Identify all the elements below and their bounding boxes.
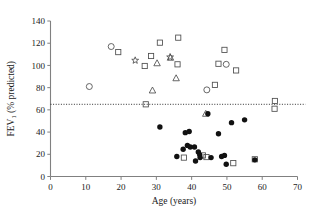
data-points-group	[86, 35, 277, 167]
data-point-filled-circle	[242, 117, 247, 122]
data-point-filled-circle	[180, 147, 185, 152]
axes-group	[47, 21, 297, 180]
data-point-open-square	[148, 53, 153, 58]
data-point-open-square	[175, 62, 180, 67]
x-tick-label: 40	[187, 182, 197, 192]
x-tick-label: 0	[48, 182, 53, 192]
data-point-open-square	[181, 155, 186, 160]
series-open-circle	[86, 44, 229, 93]
plot-canvas: 020406080100120140010203040506070Age (ye…	[0, 0, 314, 211]
data-point-filled-circle	[252, 157, 257, 162]
data-point-open-star	[132, 57, 139, 64]
y-tick-label: 60	[36, 105, 46, 115]
x-tick-label: 60	[258, 182, 268, 192]
data-point-open-square	[272, 106, 277, 111]
x-tick-label: 20	[117, 182, 127, 192]
scatter-plot-figure: 020406080100120140010203040506070Age (ye…	[0, 0, 314, 211]
data-point-open-circle	[204, 87, 210, 93]
series-filled-circle	[157, 111, 257, 167]
data-point-filled-circle	[205, 111, 210, 116]
data-point-open-circle	[86, 84, 92, 90]
data-point-filled-circle	[229, 120, 234, 125]
data-point-open-circle	[108, 44, 114, 50]
x-tick-label: 10	[81, 182, 91, 192]
data-point-open-square	[234, 68, 239, 73]
data-point-open-triangle	[173, 75, 179, 81]
data-point-filled-circle	[197, 155, 202, 160]
data-point-filled-circle	[193, 158, 198, 163]
x-axis-title: Age (years)	[152, 196, 197, 207]
data-point-filled-circle	[216, 131, 221, 136]
data-point-open-square	[142, 63, 147, 68]
y-tick-label: 20	[36, 149, 46, 159]
data-point-filled-circle	[157, 124, 162, 129]
data-point-filled-circle	[192, 144, 197, 149]
data-point-open-square	[231, 161, 236, 166]
x-tick-label: 30	[152, 182, 162, 192]
data-point-open-square	[272, 98, 277, 103]
y-tick-label: 80	[36, 83, 46, 93]
data-point-open-square	[204, 154, 209, 159]
y-tick-label: 120	[32, 38, 46, 48]
data-point-open-square	[216, 61, 221, 66]
y-tick-label: 0	[41, 172, 46, 182]
data-point-filled-circle	[174, 154, 179, 159]
data-point-open-square	[157, 40, 162, 45]
y-tick-label: 140	[32, 16, 46, 26]
data-point-filled-circle	[186, 129, 191, 134]
data-point-open-square	[116, 50, 121, 55]
data-point-filled-circle	[224, 162, 229, 167]
data-point-open-triangle	[154, 60, 160, 66]
data-point-open-square	[222, 47, 227, 52]
data-point-filled-circle	[208, 155, 213, 160]
data-point-open-circle	[223, 61, 229, 67]
series-open-triangle	[149, 54, 209, 116]
x-tick-label: 70	[293, 182, 303, 192]
data-point-filled-circle	[219, 154, 224, 159]
data-point-open-square	[212, 82, 217, 87]
x-tick-label: 50	[222, 182, 232, 192]
data-point-open-square	[176, 35, 181, 40]
data-point-open-triangle	[149, 87, 155, 93]
y-tick-label: 100	[32, 61, 46, 71]
y-tick-label: 40	[36, 127, 46, 137]
y-axis-title: FEV1 (% predicted)	[6, 61, 17, 137]
